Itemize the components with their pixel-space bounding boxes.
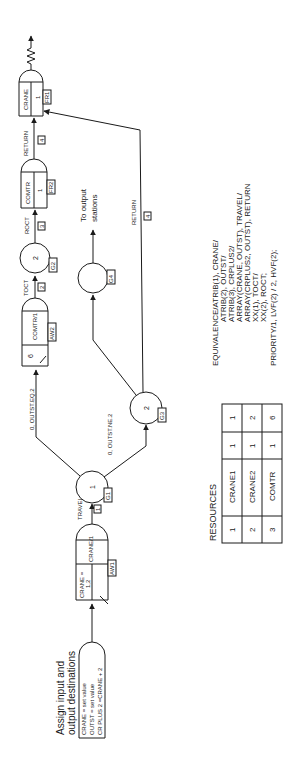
- svg-text:G4: G4: [108, 274, 114, 283]
- svg-text:CRANE = set value: CRANE = set value: [81, 682, 87, 735]
- svg-text:CRANE/1: CRANE/1: [88, 535, 94, 562]
- svg-text:2: 2: [32, 256, 39, 260]
- svg-text:ROCT: ROCT: [24, 217, 30, 234]
- free-node-fr2: COMTR 1 FR2: [21, 159, 55, 208]
- svg-text:COMTR/1: COMTR/1: [32, 312, 38, 340]
- svg-text:1: 1: [89, 485, 96, 489]
- svg-text:1: 1: [228, 443, 237, 448]
- svg-text:1: 1: [248, 443, 257, 448]
- equivalence-statements: EQUIVALENCE/ATRIB(1), CRANE/ ATRIB(2), O…: [211, 183, 278, 366]
- svg-text:0, OUTST.EQ.2: 0, OUTST.EQ.2: [29, 388, 35, 430]
- svg-text:0, OUTST.NE.2: 0, OUTST.NE.2: [107, 413, 113, 455]
- svg-text:1: 1: [228, 527, 237, 532]
- svg-text:CR PLUS 2 =CRANE + 2: CR PLUS 2 =CRANE + 2: [97, 667, 103, 735]
- goon-g4: [78, 263, 108, 293]
- svg-text:2: 2: [248, 527, 257, 532]
- svg-text:G1: G1: [105, 491, 111, 500]
- svg-text:1: 1: [228, 415, 237, 420]
- svg-text:3: 3: [268, 527, 277, 532]
- svg-text:1,2: 1,2: [85, 579, 91, 588]
- svg-text:PRIORITY/1, LVF(2) / 2, HVF(2): PRIORITY/1, LVF(2) / 2, HVF(2);: [269, 250, 278, 366]
- svg-text:RETURN: RETURN: [131, 200, 137, 225]
- svg-text:OUTST = set value: OUTST = set value: [89, 683, 95, 735]
- free-node-fr1: CRANE 1 FR1: [19, 70, 51, 116]
- svg-text:AW1: AW1: [109, 562, 115, 575]
- svg-text:AW2: AW2: [49, 327, 55, 340]
- svg-text:FR1: FR1: [44, 91, 50, 103]
- svg-text:XX(2), ROCT;: XX(2), ROCT;: [259, 273, 268, 322]
- svg-text:CRANE2: CRANE2: [248, 470, 257, 503]
- svg-text:RETURN: RETURN: [23, 131, 29, 156]
- assign-node: CRANE = set value OUTST = set value CR P…: [79, 642, 105, 738]
- svg-text:1: 1: [268, 443, 277, 448]
- svg-text:2: 2: [248, 415, 257, 420]
- svg-text:COMTR: COMTR: [268, 471, 277, 501]
- svg-text:G2: G2: [50, 261, 56, 270]
- svg-text:COMTR: COMTR: [25, 181, 31, 204]
- svg-text:CRANE: CRANE: [23, 89, 29, 110]
- assign-note-line2: output destinations: [66, 651, 77, 735]
- svg-text:CRANE1: CRANE1: [228, 470, 237, 503]
- slam-network-diagram: Assign input and output destinations CRA…: [0, 0, 298, 783]
- await-node-aw1: CRANE = 1,2 CRANE/1 AW1: [76, 524, 116, 604]
- svg-text:stations: stations: [90, 194, 99, 222]
- svg-text:To output: To output: [79, 188, 88, 222]
- resources-table: RESOURCES 1 CRANE1 1 1 2 CRANE2 1 2 3 CO…: [208, 404, 282, 543]
- await-node-aw2: 6 COMTR/1 AW2: [22, 298, 56, 366]
- svg-text:TOCT: TOCT: [23, 279, 29, 296]
- assign-note-line1: Assign input and: [55, 661, 66, 735]
- svg-text:2: 2: [143, 406, 150, 410]
- svg-text:RESOURCES: RESOURCES: [208, 484, 218, 541]
- svg-text:6: 6: [268, 415, 277, 420]
- svg-text:G3: G3: [159, 411, 165, 420]
- svg-text:FR2: FR2: [48, 181, 54, 193]
- svg-text:6: 6: [27, 354, 34, 358]
